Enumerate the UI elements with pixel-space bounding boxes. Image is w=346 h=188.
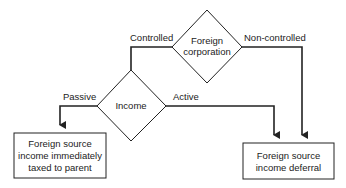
foreign-corporation-node: Foreign corporation xyxy=(172,10,242,83)
active-label: Active xyxy=(173,91,199,102)
non-controlled-connector xyxy=(242,47,302,135)
non-controlled-label: Non-controlled xyxy=(244,32,306,43)
taxed-to-parent-node: Foreign source income immediately taxed … xyxy=(14,133,106,178)
flowchart-canvas: Foreign corporation Controlled Non-contr… xyxy=(0,0,346,188)
taxed-box-line1: Foreign source xyxy=(28,138,91,149)
taxed-box-line2: income immediately xyxy=(18,150,102,161)
income-deferral-box xyxy=(243,143,334,179)
foreign-corporation-label-line2: corporation xyxy=(183,46,231,57)
edge-controlled: Controlled xyxy=(130,32,173,70)
controlled-label: Controlled xyxy=(130,32,173,43)
income-label: Income xyxy=(115,100,146,111)
passive-label: Passive xyxy=(63,91,96,102)
deferral-box-line2: income deferral xyxy=(256,162,321,173)
deferral-box-line1: Foreign source xyxy=(257,150,320,161)
taxed-box-line3: taxed to parent xyxy=(28,162,92,173)
edge-passive: Passive xyxy=(60,91,97,125)
foreign-corporation-label-line1: Foreign xyxy=(191,35,223,46)
active-connector xyxy=(166,106,274,135)
income-node: Income xyxy=(97,70,166,141)
controlled-connector xyxy=(131,47,172,70)
income-deferral-node: Foreign source income deferral xyxy=(243,143,334,179)
edge-active: Active xyxy=(166,91,274,135)
passive-connector xyxy=(60,106,97,125)
